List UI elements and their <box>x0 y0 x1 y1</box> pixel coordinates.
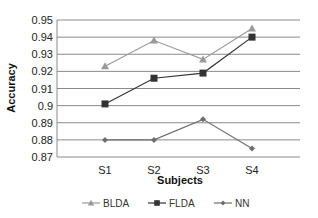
square-marker <box>151 75 158 82</box>
legend-label: NN <box>235 198 249 209</box>
y-axis-ticks: 0.870.880.890.90.910.920.930.940.95 <box>32 14 53 163</box>
x-tick-label: S1 <box>98 164 111 176</box>
series-flda <box>102 34 256 108</box>
x-tick-label: S4 <box>245 164 258 176</box>
y-tick-label: 0.95 <box>32 14 53 26</box>
legend: BLDAFLDANN <box>82 198 249 209</box>
y-tick-label: 0.93 <box>32 48 53 60</box>
y-tick-label: 0.87 <box>32 151 53 163</box>
y-tick-label: 0.92 <box>32 65 53 77</box>
square-marker <box>154 200 160 206</box>
line-chart: 0.870.880.890.90.910.920.930.940.95 S1S2… <box>0 0 318 218</box>
triangle-marker <box>248 25 256 32</box>
y-tick-label: 0.91 <box>32 83 53 95</box>
series-blda <box>101 25 256 70</box>
y-tick-label: 0.88 <box>32 134 53 146</box>
legend-label: FLDA <box>169 198 195 209</box>
y-tick-label: 0.89 <box>32 117 53 129</box>
x-axis-label: Subjects <box>157 174 203 186</box>
series-nn <box>102 116 255 151</box>
legend-item-blda: BLDA <box>82 198 129 209</box>
diamond-marker <box>221 201 226 206</box>
legend-item-flda: FLDA <box>148 198 195 209</box>
diamond-marker <box>102 137 108 143</box>
legend-label: BLDA <box>103 198 129 209</box>
diamond-marker <box>200 116 206 122</box>
diamond-marker <box>151 137 157 143</box>
y-tick-label: 0.9 <box>38 100 53 112</box>
square-marker <box>249 34 256 41</box>
y-tick-label: 0.94 <box>32 31 53 43</box>
square-marker <box>200 70 207 77</box>
diamond-marker <box>249 145 255 151</box>
triangle-marker <box>101 62 109 69</box>
grid-lines <box>57 20 300 157</box>
y-axis-label: Accuracy <box>5 62 17 112</box>
square-marker <box>102 100 109 107</box>
legend-item-nn: NN <box>214 198 249 209</box>
